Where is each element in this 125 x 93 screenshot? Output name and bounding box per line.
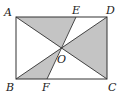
label-b: B	[5, 81, 14, 93]
label-d: D	[105, 4, 115, 17]
label-c: C	[108, 81, 117, 93]
shaded-triangle-aoe	[16, 17, 76, 48]
label-a: A	[3, 6, 12, 19]
geometry-diagram: A E D O B F C	[0, 0, 125, 93]
label-o: O	[57, 53, 66, 66]
label-e: E	[71, 4, 80, 17]
label-f: F	[41, 81, 50, 93]
